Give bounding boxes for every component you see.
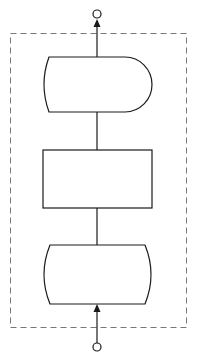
- flow-diagram: [0, 0, 197, 360]
- input-shape[interactable]: [44, 245, 151, 304]
- process-box[interactable]: [43, 150, 152, 208]
- output-port-circle[interactable]: [93, 10, 101, 18]
- input-port-circle[interactable]: [93, 343, 101, 351]
- output-shape[interactable]: [44, 57, 152, 112]
